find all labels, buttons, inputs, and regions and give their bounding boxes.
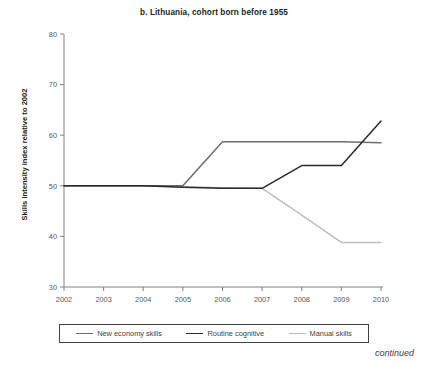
series-line-manual-skills <box>64 186 381 243</box>
x-axis-tick-label: 2007 <box>254 295 270 304</box>
x-axis-tick-label: 2005 <box>175 295 191 304</box>
x-axis-tick-label: 2010 <box>373 295 389 304</box>
y-axis-tick-label: 30 <box>49 283 57 292</box>
chart-legend: New economy skillsRoutine cognitiveManua… <box>59 324 369 343</box>
legend-swatch-icon <box>289 333 306 334</box>
figure-panel: b. Lithuania, cohort born before 1955 Sk… <box>0 0 428 366</box>
legend-label: Manual skills <box>310 330 352 337</box>
y-axis-tick-label: 50 <box>49 182 57 191</box>
legend-label: New economy skills <box>97 330 162 337</box>
x-axis-tick-label: 2002 <box>56 295 72 304</box>
x-axis-tick-label: 2004 <box>135 295 151 304</box>
continued-note: continued <box>375 348 414 358</box>
y-axis-tick-label: 60 <box>49 131 57 140</box>
legend-item: New economy skills <box>76 330 162 337</box>
y-axis-tick-label: 80 <box>49 30 57 39</box>
series-line-new-economy-skills <box>64 142 381 186</box>
line-chart-plot: 3040506070802002200320042005200620072008… <box>0 0 428 320</box>
legend-item: Routine cognitive <box>186 330 264 337</box>
legend-swatch-icon <box>186 333 203 334</box>
legend-swatch-icon <box>76 333 93 334</box>
x-axis-tick-label: 2009 <box>333 295 349 304</box>
series-line-routine-cognitive <box>64 121 381 188</box>
y-axis-tick-label: 40 <box>49 232 57 241</box>
legend-item: Manual skills <box>289 330 352 337</box>
y-axis-tick-label: 70 <box>49 80 57 89</box>
legend-label: Routine cognitive <box>207 330 264 337</box>
x-axis-tick-label: 2006 <box>214 295 230 304</box>
x-axis-tick-label: 2003 <box>95 295 111 304</box>
x-axis-tick-label: 2008 <box>294 295 310 304</box>
